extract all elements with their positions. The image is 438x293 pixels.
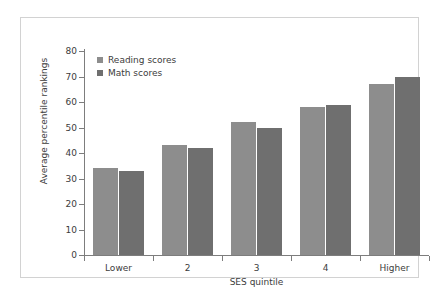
x-axis-tick xyxy=(153,256,154,261)
y-axis-tick-label: 40 xyxy=(47,149,77,158)
x-axis-tick-label: Higher xyxy=(360,263,429,273)
legend-item: Reading scores xyxy=(97,54,176,66)
legend-swatch-icon xyxy=(97,70,103,76)
y-axis-tick xyxy=(79,102,84,103)
bar xyxy=(119,171,144,255)
chart-legend: Reading scoresMath scores xyxy=(97,54,176,80)
y-axis-tick-label: 30 xyxy=(47,175,77,184)
y-axis-tick-label-wrap: 20 xyxy=(43,200,77,209)
x-axis-tick xyxy=(222,256,223,261)
y-axis-tick xyxy=(79,179,84,180)
figure-frame: 01020304050607080 Lower234Higher Average… xyxy=(20,17,419,278)
x-axis-tick xyxy=(291,256,292,261)
x-axis-title: SES quintile xyxy=(84,277,429,287)
bar xyxy=(369,84,394,255)
y-axis-tick xyxy=(79,230,84,231)
bar xyxy=(395,77,420,256)
bar xyxy=(326,105,351,255)
y-axis-tick-label: 50 xyxy=(47,124,77,133)
legend-label: Math scores xyxy=(108,69,162,78)
x-axis-tick xyxy=(360,256,361,261)
bar xyxy=(257,128,282,256)
y-axis-tick xyxy=(79,77,84,78)
legend-swatch-icon xyxy=(97,57,103,63)
y-axis-tick-label: 10 xyxy=(47,226,77,235)
y-axis-tick-label: 20 xyxy=(47,200,77,209)
bar xyxy=(162,145,187,255)
y-axis-tick-label-wrap: 10 xyxy=(43,226,77,235)
y-axis-tick xyxy=(79,204,84,205)
y-axis-tick xyxy=(79,128,84,129)
y-axis-tick-label: 80 xyxy=(47,47,77,56)
x-axis-tick-label: 3 xyxy=(222,263,291,273)
legend-label: Reading scores xyxy=(108,56,176,65)
bar xyxy=(93,168,118,255)
y-axis-tick-label: 60 xyxy=(47,98,77,107)
x-axis-line xyxy=(84,255,429,256)
y-axis-title: Average percentile rankings xyxy=(39,51,49,191)
y-axis-line xyxy=(84,49,85,257)
y-axis-tick xyxy=(79,51,84,52)
y-axis-tick-label-wrap: 0 xyxy=(43,251,77,260)
x-axis-tick xyxy=(429,256,430,261)
y-axis-tick-label: 70 xyxy=(47,73,77,82)
bar xyxy=(188,148,213,255)
legend-item: Math scores xyxy=(97,67,176,79)
x-axis-tick xyxy=(84,256,85,261)
x-axis-tick-label: 4 xyxy=(291,263,360,273)
y-axis-tick xyxy=(79,153,84,154)
bar xyxy=(231,122,256,255)
bar xyxy=(300,107,325,255)
x-axis-tick-label: Lower xyxy=(84,263,153,273)
y-axis-tick-label: 0 xyxy=(47,251,77,260)
x-axis-tick-label: 2 xyxy=(153,263,222,273)
